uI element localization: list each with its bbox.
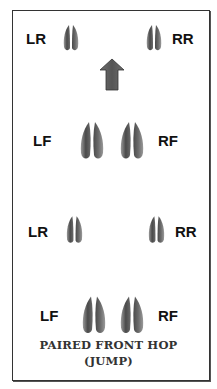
caption-title: PAIRED FRONT HOP (0, 340, 217, 352)
right-rear-print-icon (145, 24, 163, 52)
label-right-front-lower: RF (158, 308, 178, 323)
label-right-rear-top: RR (172, 31, 194, 46)
label-left-rear-top: LR (26, 31, 46, 46)
label-left-front-lower: LF (40, 308, 58, 323)
left-front-print-icon (81, 295, 107, 336)
label-right-rear-lower: RR (175, 224, 197, 239)
right-rear-print-icon (147, 215, 166, 245)
right-front-print-icon (119, 121, 145, 161)
left-front-print-icon (79, 121, 105, 161)
label-left-front-upper: LF (33, 133, 51, 148)
caption-subtitle: (JUMP) (0, 356, 217, 368)
arrow-up-icon (99, 58, 125, 91)
right-front-print-icon (119, 295, 145, 336)
label-left-rear-lower: LR (28, 224, 48, 239)
label-right-front-upper: RF (158, 133, 178, 148)
left-rear-print-icon (62, 24, 80, 52)
left-rear-print-icon (65, 215, 84, 245)
